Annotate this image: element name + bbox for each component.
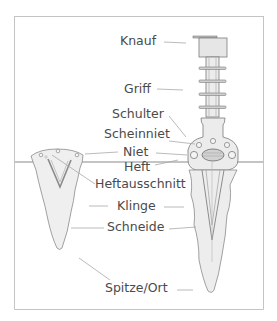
label-schulter: Schulter	[112, 108, 164, 121]
label-knauf: Knauf	[120, 35, 156, 48]
label-klinge: Klinge	[117, 200, 156, 213]
label-schneide: Schneide	[107, 221, 164, 234]
label-scheinniet: Scheinniet	[104, 128, 170, 141]
label-niet: Niet	[123, 146, 148, 159]
label-heftausschnitt: Heftausschnitt	[95, 178, 186, 191]
left-dagger-blade	[31, 149, 83, 250]
label-spitze-ort: Spitze/Ort	[105, 282, 168, 295]
label-griff: Griff	[124, 83, 151, 96]
right-dagger	[188, 36, 238, 292]
label-heft: Heft	[124, 161, 150, 174]
